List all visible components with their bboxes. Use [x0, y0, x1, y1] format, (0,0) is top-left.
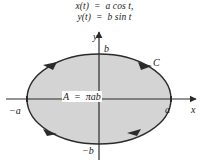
curve-label-c: C: [153, 58, 160, 68]
ellipse-plot: [0, 0, 209, 168]
y-axis-label: y: [93, 32, 97, 42]
x-axis-label: x: [191, 105, 195, 115]
x-tick-label-a: a: [165, 105, 170, 115]
y-tick-label-b: b: [104, 44, 109, 54]
ellipse-figure: x(t) = a cos t, y(t) = b sin t: [0, 0, 209, 168]
y-tick-label-neg-b: −b: [82, 146, 94, 156]
area-formula-label: A = πab: [62, 91, 102, 102]
x-tick-label-neg-a: −a: [9, 106, 21, 116]
